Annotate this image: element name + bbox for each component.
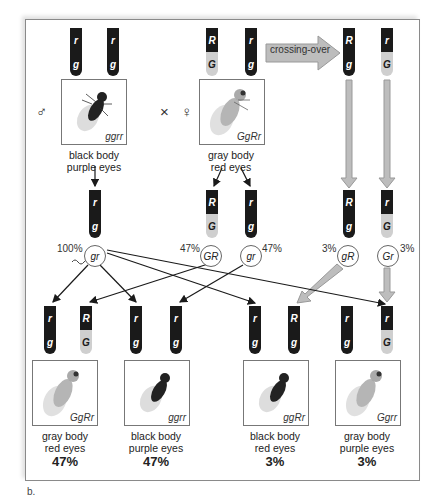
recombinant-gamete-chromosome-2: r G [381,190,393,238]
offspring-4-chromosome-1: r g [341,306,353,354]
phenotype-line: purple eyes [116,442,196,454]
male-fly-box: ggrr [61,79,127,145]
male-symbol-icon: ♂ [36,103,47,120]
female-gamete-chromosome-2: r g [245,190,257,238]
allele-label: g [44,330,56,354]
offspring-2-chromosome-2: r g [170,306,182,354]
allele-label: r [381,190,393,214]
allele-label: G [381,52,393,76]
allele-label: r [130,306,142,330]
allele-label: g [107,52,119,76]
allele-label: R [80,306,92,330]
phenotype-line: purple eyes [56,161,132,173]
phenotype-line: red eyes [193,161,269,173]
allele-label: R [288,306,300,330]
phenotype-line: red eyes [25,442,105,454]
allele-label: r [381,306,393,330]
gamete-circle: gr [84,245,106,267]
offspring-2-phenotype: black body purple eyes 47% [116,430,196,470]
gamete-circle: GR [200,245,222,267]
offspring-3-fly-box: ggRr [243,360,309,426]
recombinant-chromosome-1: R g [343,28,355,76]
phenotype-line: purple eyes [327,442,407,454]
allele-label: g [130,330,142,354]
allele-label: r [341,306,353,330]
allele-label: g [343,214,355,238]
gamete-circle: gr [240,245,262,267]
female-chromosome-1: R G [206,28,218,76]
allele-label: R [343,28,355,52]
allele-label: R [343,190,355,214]
phenotype-line: gray body [25,430,105,442]
genotype-label: GgRr [70,412,94,423]
offspring-1-chromosome-1: r g [44,306,56,354]
allele-label: g [245,52,257,76]
allele-label: G [80,330,92,354]
allele-label: G [206,214,218,238]
allele-label: r [44,306,56,330]
allele-label: R [206,190,218,214]
offspring-percent: 47% [116,454,196,470]
gamete-circle: Gr [377,245,399,267]
phenotype-line: black body [235,430,315,442]
gamete-percent: 3% [322,243,336,254]
offspring-percent: 3% [327,454,407,470]
offspring-2-fly-box: ggrr [124,360,190,426]
female-fly-box: GgRr [199,79,265,145]
allele-label: r [245,190,257,214]
allele-label: g [89,214,101,238]
allele-label: G [206,52,218,76]
phenotype-line: black body [56,149,132,161]
female-phenotype: gray body red eyes [193,149,269,173]
offspring-percent: 3% [235,454,315,470]
male-chromosome-1: r g [70,28,82,76]
gamete-percent: 100% [57,243,83,254]
crossing-over-label: crossing-over [270,44,330,55]
genotype-label: ggRr [283,412,305,423]
allele-label: G [381,330,393,354]
allele-label: r [70,28,82,52]
allele-label: G [381,214,393,238]
allele-label: r [245,28,257,52]
allele-label: g [245,214,257,238]
offspring-1-phenotype: gray body red eyes 47% [25,430,105,470]
gamete-percent: 3% [400,243,414,254]
phenotype-line: black body [116,430,196,442]
allele-label: r [170,306,182,330]
offspring-percent: 47% [25,454,105,470]
offspring-2-chromosome-1: r g [130,306,142,354]
allele-label: r [89,190,101,214]
allele-label: g [249,330,261,354]
genotype-label: Ggrr [377,412,397,423]
female-gamete-chromosome-1: R G [206,190,218,238]
allele-label: r [249,306,261,330]
offspring-1-fly-box: GgRr [32,360,98,426]
allele-label: g [170,330,182,354]
offspring-3-phenotype: black body red eyes 3% [235,430,315,470]
offspring-4-phenotype: gray body purple eyes 3% [327,430,407,470]
figure-label: b. [27,486,35,497]
allele-label: g [288,330,300,354]
allele-label: R [206,28,218,52]
recombinant-gamete-chromosome-1: R g [343,190,355,238]
genotype-label: GgRr [237,131,261,142]
male-gamete-chromosome: r g [89,190,101,238]
phenotype-line: gray body [193,149,269,161]
female-chromosome-2: r g [245,28,257,76]
phenotype-line: red eyes [235,442,315,454]
allele-label: r [381,28,393,52]
offspring-1-chromosome-2: R G [80,306,92,354]
gamete-percent: 47% [262,243,282,254]
genotype-label: ggrr [105,131,123,142]
allele-label: r [107,28,119,52]
allele-label: g [343,52,355,76]
offspring-4-chromosome-2: r G [381,306,393,354]
genotype-label: ggrr [168,412,186,423]
male-phenotype: black body purple eyes [56,149,132,173]
gamete-circle: gR [337,245,359,267]
phenotype-line: gray body [327,430,407,442]
recombinant-chromosome-2: r G [381,28,393,76]
gamete-percent: 47% [180,243,200,254]
offspring-3-chromosome-1: r g [249,306,261,354]
allele-label: g [341,330,353,354]
